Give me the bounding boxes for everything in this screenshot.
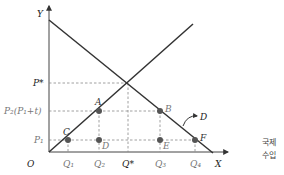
point-b (157, 108, 163, 114)
curve-pointer-arrow (183, 116, 197, 126)
demand-curve-label: D (199, 112, 207, 122)
point-f (192, 137, 198, 143)
q-star-label: Q* (122, 159, 134, 169)
supply-demand-diagram: Y X O P* P₂(P₁+t) P₁ Q₁ Q₂ Q* Q₃ Q₄ A B … (0, 0, 284, 175)
side-note-line2: 수입 (262, 151, 276, 160)
point-a-label: A (94, 97, 102, 107)
p-star-label: P* (32, 78, 44, 88)
p2-label: P₂(P₁+t) (3, 106, 42, 116)
point-c (65, 137, 71, 143)
p1-label: P₁ (33, 135, 44, 145)
point-c-label: C (63, 127, 70, 137)
point-b-label: B (164, 104, 172, 114)
guide-lines (49, 83, 195, 152)
origin-label: O (27, 159, 35, 169)
point-f-label: F (199, 133, 207, 143)
point-e-label: E (162, 141, 170, 151)
x-axis-label: X (214, 159, 222, 169)
q3-label: Q₃ (155, 159, 166, 169)
q2-label: Q₂ (94, 159, 105, 169)
point-d-label: D (101, 141, 109, 151)
side-note-line1: 국제 (262, 138, 276, 147)
point-a (96, 108, 102, 114)
q1-label: Q₁ (63, 159, 74, 169)
demand-curve (49, 20, 213, 153)
y-axis-label: Y (37, 9, 44, 19)
q4-label: Q₄ (190, 159, 201, 169)
supply-curve (49, 24, 193, 152)
